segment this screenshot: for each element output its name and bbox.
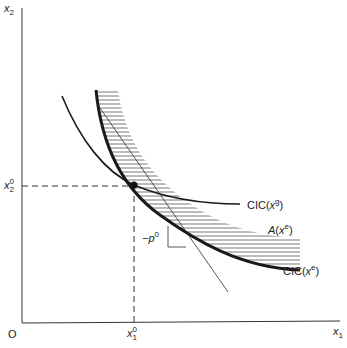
y-axis-label: x2	[4, 2, 14, 17]
x-axis	[22, 321, 340, 323]
tangency-point	[131, 182, 138, 189]
diagram-canvas: x2 x1 O x02 x01 CIC(xg) A(xe) CIC(xe) −p…	[0, 0, 347, 348]
x1-0-tick-label: x01	[127, 326, 137, 342]
price-label: −p0	[142, 230, 159, 244]
cic-g-label: CIC(xg)	[247, 197, 283, 211]
price-line	[100, 108, 228, 292]
x2-0-tick-label: x02	[4, 178, 14, 194]
cic-e-curve	[96, 90, 300, 270]
diagram-svg	[0, 0, 347, 348]
x-axis-label: x1	[333, 325, 343, 340]
region-a-label: A(xe)	[268, 222, 293, 236]
origin-label: O	[8, 328, 17, 340]
cic-e-label: CIC(xe)	[283, 263, 319, 277]
